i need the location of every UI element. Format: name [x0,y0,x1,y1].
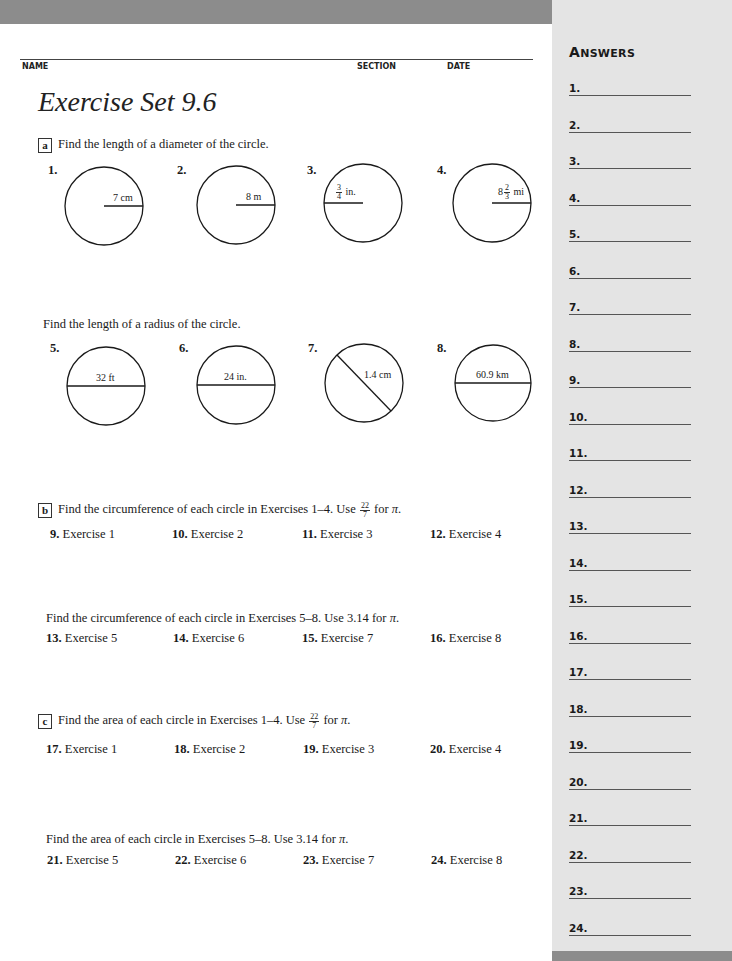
answer-blank[interactable]: 12. [569,479,691,498]
exercise-item: 24. Exercise 8 [431,853,502,868]
answer-blank[interactable]: 6. [569,260,691,279]
circle-1-label: 7 cm [113,192,133,203]
answer-number: 17. [569,666,588,678]
fraction: 227 [309,713,319,730]
answer-blank[interactable]: 22. [569,844,691,863]
answer-blank[interactable]: 23. [569,880,691,899]
answer-number: 22. [569,849,588,861]
answer-number: 18. [569,703,588,715]
exercise-number: 6. [179,341,188,356]
answer-number: 4. [569,192,580,204]
answer-blank[interactable]: 1. [569,77,691,96]
answer-number: 14. [569,557,588,569]
answer-blank[interactable]: 9. [569,369,691,388]
exercise-item: 12. Exercise 4 [430,527,501,542]
exercise-item: 19. Exercise 3 [303,742,374,757]
radius-instruction: Find the length of a radius of the circl… [43,317,241,332]
exercise-number: 5. [50,341,59,356]
answer-number: 15. [569,593,588,605]
answer-blank[interactable]: 21. [569,807,691,826]
section-c-instruction-2: Find the area of each circle in Exercise… [46,832,348,847]
exercise-item: 9. Exercise 1 [50,527,115,542]
answer-number: 19. [569,739,588,751]
section-c-instruction-1: cFind the area of each circle in Exercis… [38,713,350,730]
exercise-item: 15. Exercise 7 [302,631,373,646]
answer-blank[interactable]: 17. [569,661,691,680]
circle-2-label: 8 m [246,191,261,202]
answer-blank[interactable]: 7. [569,296,691,315]
exercise-item: 20. Exercise 4 [430,742,501,757]
answer-number: 21. [569,812,588,824]
exercise-item: 17. Exercise 1 [46,742,117,757]
answer-number: 16. [569,630,588,642]
section-b-instruction-1: bFind the circumference of each circle i… [38,502,401,519]
answer-number: 23. [569,885,588,897]
answer-number: 9. [569,374,580,386]
answer-number: 5. [569,228,580,240]
answer-number: 2. [569,119,580,131]
exercise-item: 18. Exercise 2 [174,742,245,757]
answer-blank[interactable]: 2. [569,114,691,133]
answer-blank[interactable]: 16. [569,625,691,644]
answer-number: 24. [569,922,588,934]
answer-number: 8. [569,338,580,350]
circle-5-label: 32 ft [96,372,115,383]
exercise-item: 21. Exercise 5 [47,853,118,868]
answer-number: 20. [569,776,588,788]
answer-blank[interactable]: 20. [569,771,691,790]
answer-number: 11. [569,447,588,459]
answer-blank[interactable]: 5. [569,223,691,242]
exercise-item: 11. Exercise 3 [302,527,372,542]
circle-4-label: 823 mi [498,184,524,201]
answer-blank[interactable]: 4. [569,187,691,206]
section-b-instruction-2: Find the circumference of each circle in… [46,611,399,626]
answer-blank[interactable]: 8. [569,333,691,352]
answer-blank[interactable]: 10. [569,406,691,425]
answer-blank[interactable]: 18. [569,698,691,717]
answer-blank[interactable]: 19. [569,734,691,753]
exercise-item: 16. Exercise 8 [430,631,501,646]
exercise-number: 3. [307,163,316,178]
exercise-number: 8. [437,341,446,356]
answers-heading: ANSWERS [569,44,635,60]
answer-blank[interactable]: 3. [569,150,691,169]
answer-blank[interactable]: 13. [569,515,691,534]
answer-number: 6. [569,265,580,277]
answer-number: 12. [569,484,588,496]
answer-number: 7. [569,301,580,313]
section-b-marker: b [38,503,52,518]
circle-3-label: 34 in. [335,184,356,201]
circle-8-label: 60.9 km [476,369,509,380]
answer-number: 10. [569,411,588,423]
section-c-marker: c [38,714,52,729]
circle-6-label: 24 in. [224,371,247,382]
exercise-number: 2. [177,163,186,178]
exercise-item: 10. Exercise 2 [172,527,243,542]
fraction: 34 [336,184,342,201]
exercise-item: 23. Exercise 7 [303,853,374,868]
answer-number: 13. [569,520,588,532]
exercise-item: 22. Exercise 6 [175,853,246,868]
exercise-number: 7. [308,341,317,356]
exercise-item: 14. Exercise 6 [173,631,244,646]
answer-blank[interactable]: 11. [569,442,691,461]
exercise-item: 13. Exercise 5 [46,631,117,646]
exercise-number: 4. [437,163,446,178]
fraction: 227 [360,502,370,519]
fraction: 23 [504,184,510,201]
answer-blank[interactable]: 24. [569,917,691,936]
exercise-number: 1. [48,163,57,178]
answer-number: 1. [569,82,580,94]
answer-number: 3. [569,155,580,167]
circle-7-label: 1.4 cm [364,369,391,380]
answer-blank[interactable]: 15. [569,588,691,607]
answer-blank[interactable]: 14. [569,552,691,571]
